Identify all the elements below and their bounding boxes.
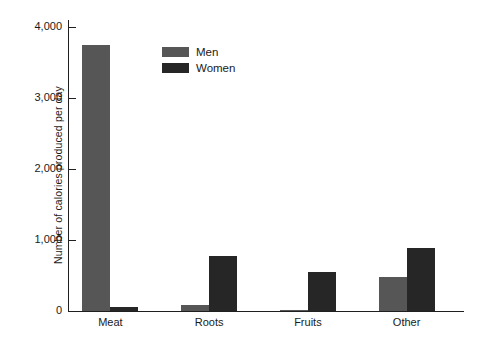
chart-legend: MenWomen <box>162 45 235 77</box>
y-axis-tick-mark <box>69 98 76 99</box>
legend-label-women: Women <box>196 62 235 74</box>
bar-women-meat <box>110 307 138 311</box>
x-axis-tick-label: Fruits <box>268 315 348 329</box>
y-axis-tick-label: 0 <box>16 305 62 316</box>
y-axis-tick-mark <box>69 169 76 170</box>
bar-men-meat <box>82 45 110 311</box>
legend-item-women: Women <box>162 61 235 75</box>
y-axis-tick-label: 4,000 <box>16 21 62 32</box>
bar-women-other <box>407 248 435 311</box>
legend-swatch-men <box>162 47 189 57</box>
bar-men-roots <box>181 305 209 311</box>
y-axis-tick-labels: 01,0002,0003,0004,000 <box>14 0 62 347</box>
plot-area <box>69 27 464 311</box>
y-axis-tick-label: 1,000 <box>16 234 62 245</box>
bar-women-fruits <box>308 272 336 311</box>
bar-chart: Number of calories produced per day 01,0… <box>0 0 479 347</box>
legend-item-men: Men <box>162 45 235 59</box>
bar-women-roots <box>209 256 237 311</box>
y-axis-tick-mark <box>69 27 76 28</box>
x-axis-tick-label: Roots <box>169 315 249 329</box>
bar-men-other <box>379 277 407 311</box>
y-axis-tick-label: 3,000 <box>16 92 62 103</box>
legend-label-men: Men <box>196 46 218 58</box>
y-axis-tick-mark <box>69 240 76 241</box>
y-axis-tick-mark <box>69 311 76 312</box>
x-axis-tick-label: Meat <box>70 315 150 329</box>
x-axis-tick-label: Other <box>367 315 447 329</box>
x-axis-tick-labels: MeatRootsFruitsOther <box>69 315 464 335</box>
x-axis-line <box>68 311 464 312</box>
y-axis-tick-label: 2,000 <box>16 163 62 174</box>
legend-swatch-women <box>162 63 189 73</box>
bar-men-fruits <box>280 310 308 311</box>
